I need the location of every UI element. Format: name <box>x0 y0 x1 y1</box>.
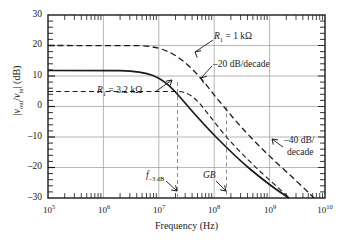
annotation-slope-20db: –20 dB/decade <box>213 59 270 69</box>
curve-r1-3k2 <box>48 71 289 199</box>
y-axis-slash: / <box>11 98 22 101</box>
x-tick-mant-0: 10 <box>43 205 52 215</box>
annotation-slope-40db-line2: decade <box>287 147 313 157</box>
y-axis-title: |vout/vin| (dB) <box>11 46 24 136</box>
y-axis-v-out: v <box>11 109 22 113</box>
curve-r1-1k <box>48 46 314 199</box>
y-axis-bar-open: | <box>11 113 22 115</box>
y-axis-sub-in: in <box>17 88 24 93</box>
annotation-r1-3k2: R1 = 3.2 kΩ <box>97 85 142 97</box>
x-tick-exp-2: 7 <box>162 203 165 210</box>
f3db-sub: –3 dB <box>149 175 165 182</box>
x-tick-mant-2: 10 <box>153 205 162 215</box>
x-tick-label-1e10: 1010 <box>313 203 337 215</box>
x-axis-title: Frequency (Hz) <box>48 220 325 231</box>
x-tick-exp-0: 5 <box>52 203 55 210</box>
y-axis-sub-out: out <box>17 101 24 109</box>
annotation-f3db: f–3 dB <box>146 170 164 182</box>
x-tick-label-1e8: 108 <box>204 203 224 215</box>
y-axis-unit: (dB) <box>11 66 22 84</box>
x-tick-exp-5: 10 <box>326 203 333 210</box>
x-tick-label-1e6: 106 <box>94 203 114 215</box>
r1-1k-rest: = 1 kΩ <box>223 31 252 41</box>
r1-3k2-rest: = 3.2 kΩ <box>106 85 142 95</box>
figure-bode-plot: 30 20 10 0 –10 –20 –30 |vout/vin| (dB) 1… <box>0 0 339 250</box>
annotation-r1-1k: R1 = 1 kΩ <box>214 31 252 43</box>
y-tick-label-neg30: –30 <box>8 192 42 202</box>
x-tick-label-1e9: 109 <box>260 203 280 215</box>
x-tick-mant-1: 10 <box>98 205 107 215</box>
x-tick-mant-3: 10 <box>208 205 217 215</box>
y-axis-right-ticks <box>318 21 325 192</box>
x-tick-label-1e7: 107 <box>149 203 169 215</box>
y-tick-label-neg20: –20 <box>8 161 42 171</box>
x-tick-exp-4: 9 <box>273 203 276 210</box>
y-axis-bar-close: | <box>11 86 22 88</box>
x-tick-mant-4: 10 <box>264 205 273 215</box>
x-tick-mant-5: 10 <box>317 205 326 215</box>
annotation-gb: GB <box>203 170 216 180</box>
curve-asymptote-20db <box>48 92 290 199</box>
annotation-slope-40db-line1: –40 dB/ <box>284 135 314 145</box>
x-tick-exp-1: 6 <box>107 203 110 210</box>
y-axis-v-in: v <box>11 93 22 97</box>
x-tick-exp-3: 8 <box>217 203 220 210</box>
x-tick-label-1e5: 105 <box>39 203 59 215</box>
y-tick-label-30: 30 <box>8 9 42 19</box>
